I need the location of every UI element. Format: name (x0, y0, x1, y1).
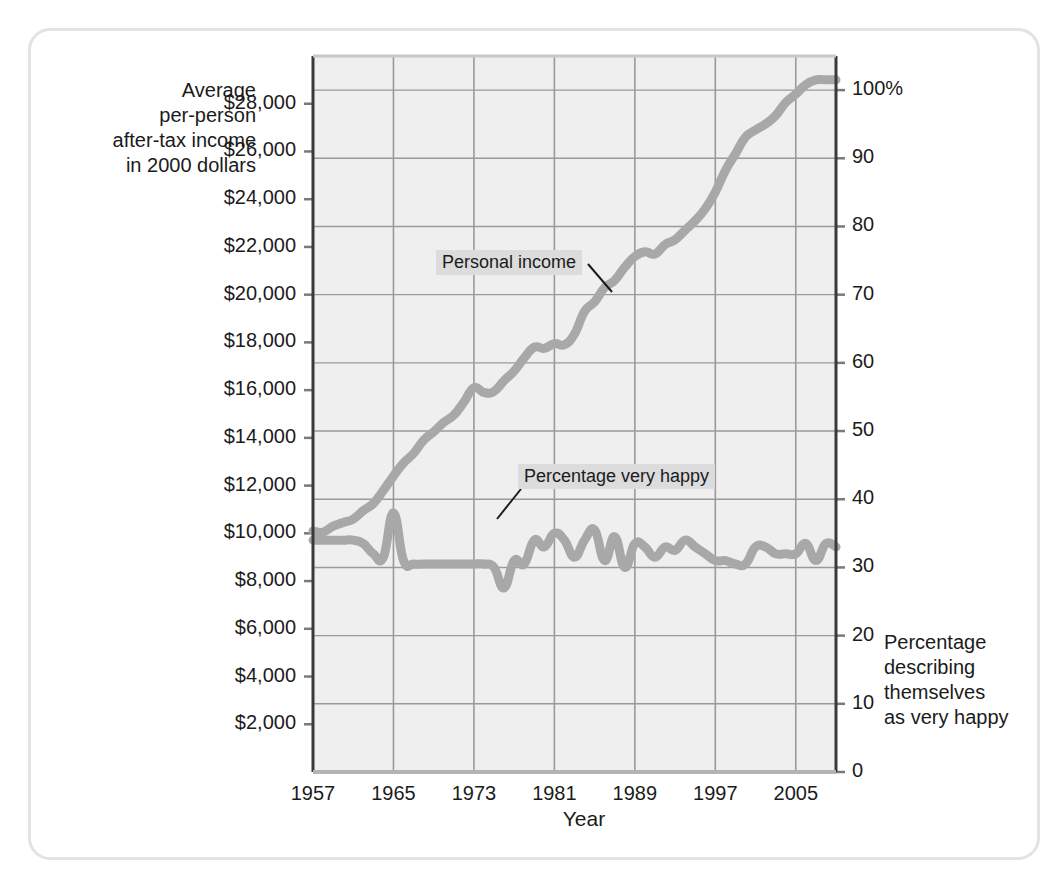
left-tick-label: $20,000 (176, 282, 296, 305)
left-tick-label: $16,000 (176, 377, 296, 400)
right-tick-label: 90 (852, 145, 922, 168)
x-tick-label: 1973 (434, 782, 514, 805)
x-tick-label: 1965 (353, 782, 433, 805)
left-tick-label: $4,000 (176, 664, 296, 687)
left-tick-label: $6,000 (176, 616, 296, 639)
left-tick-label: $8,000 (176, 568, 296, 591)
left-tick-label: $22,000 (176, 234, 296, 257)
annotation-personal-income: Personal income (436, 250, 582, 275)
left-tick-label: $28,000 (176, 91, 296, 114)
right-tick-label: 40 (852, 486, 922, 509)
x-tick-label: 2005 (756, 782, 836, 805)
left-tick-label: $26,000 (176, 138, 296, 161)
right-tick-label: 20 (852, 623, 922, 646)
x-tick-label: 1981 (514, 782, 594, 805)
right-tick-label: 80 (852, 213, 922, 236)
annotation-percentage-very-happy: Percentage very happy (518, 464, 715, 489)
left-tick-label: $24,000 (176, 186, 296, 209)
x-axis-title: Year (524, 806, 644, 831)
x-tick-label: 1957 (273, 782, 353, 805)
plot-area-background (313, 56, 836, 772)
right-tick-label: 10 (852, 691, 922, 714)
right-tick-label: 0 (852, 759, 922, 782)
right-tick-label: 100% (852, 77, 922, 100)
left-tick-label: $14,000 (176, 425, 296, 448)
x-tick-label: 1989 (595, 782, 675, 805)
x-tick-label: 1997 (675, 782, 755, 805)
right-tick-label: 70 (852, 282, 922, 305)
right-tick-label: 50 (852, 418, 922, 441)
left-tick-label: $2,000 (176, 711, 296, 734)
left-tick-label: $10,000 (176, 520, 296, 543)
left-tick-label: $12,000 (176, 473, 296, 496)
right-tick-label: 30 (852, 554, 922, 577)
right-tick-label: 60 (852, 350, 922, 373)
left-tick-label: $18,000 (176, 329, 296, 352)
